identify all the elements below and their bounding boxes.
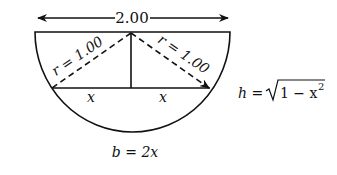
height-formula-radicand: 1 − x [280, 85, 318, 101]
half-chord-label-right: x [159, 89, 167, 105]
semicircle-channel-diagram: 2.00 r = 1.00 r = 1.00 x x b = 2x h = 1 … [0, 0, 337, 175]
height-formula-lhs: h = [238, 85, 263, 101]
height-formula-exponent: 2 [318, 81, 324, 92]
height-formula: h = 1 − x 2 [238, 80, 325, 101]
width-label: 2.00 [115, 9, 148, 27]
half-chord-label-left: x [87, 89, 95, 105]
base-formula: b = 2x [112, 144, 159, 160]
